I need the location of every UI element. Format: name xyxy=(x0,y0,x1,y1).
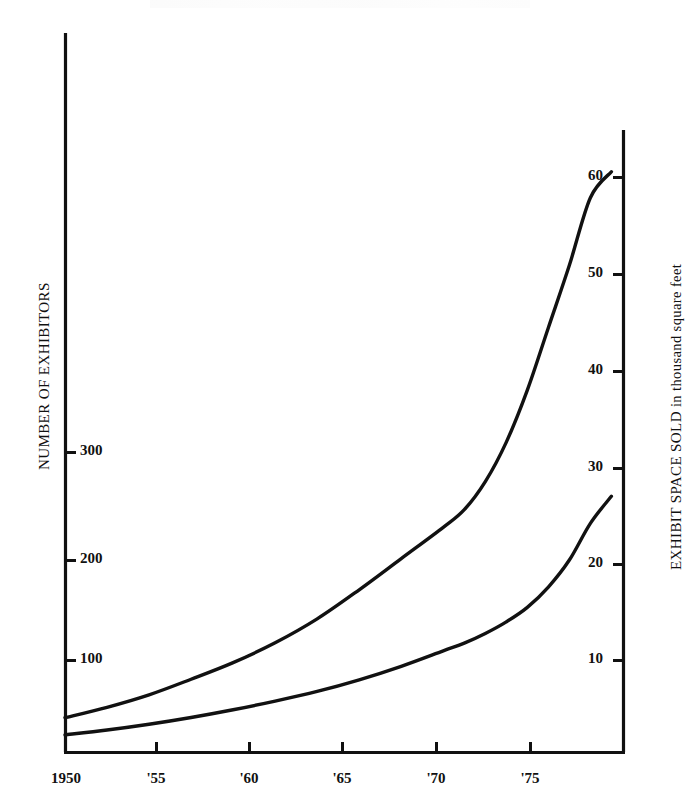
left-axis-label-300: 300 xyxy=(80,442,103,459)
right-axis-label-50: 50 xyxy=(565,264,603,281)
x-axis-label-1965: '65 xyxy=(314,770,370,787)
right-axis-label-40: 40 xyxy=(565,361,603,378)
right-axis-title-rest: in thousand square feet xyxy=(668,264,684,411)
right-axis-title: EXHIBIT SPACE SOLD in thousand square fe… xyxy=(668,264,685,570)
chart-container: NUMBER OF EXHIBITORS EXHIBIT SPACE SOLD … xyxy=(0,0,693,807)
left-axis-label-100: 100 xyxy=(80,650,103,667)
left-axis-label-200: 200 xyxy=(80,550,103,567)
series-line-number-of-exhibitors xyxy=(65,172,611,718)
left-axis-title: NUMBER OF EXHIBITORS xyxy=(36,282,53,470)
x-axis-label-1950: 1950 xyxy=(35,770,97,787)
right-axis-label-10: 10 xyxy=(565,650,603,667)
x-axis-label-1960: '60 xyxy=(221,770,277,787)
series-line-exhibit-space-sold xyxy=(65,496,611,735)
right-axis-label-20: 20 xyxy=(565,554,603,571)
chart-plot-area xyxy=(0,0,693,807)
x-axis-label-1975: '75 xyxy=(502,770,558,787)
right-axis-label-60: 60 xyxy=(565,167,603,184)
right-axis-label-30: 30 xyxy=(565,458,603,475)
x-axis-label-1970: '70 xyxy=(408,770,464,787)
x-axis-label-1955: '55 xyxy=(128,770,184,787)
right-axis-title-caps: EXHIBIT SPACE SOLD xyxy=(668,411,684,570)
